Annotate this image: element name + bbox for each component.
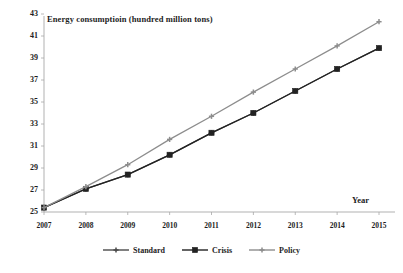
legend-item-crisis[interactable]: Crisis [182, 245, 232, 255]
data-point-marker [209, 130, 214, 135]
series-line [44, 48, 379, 208]
energy-consumption-line-chart: Energy consumptioin (hundred million ton… [0, 0, 403, 273]
plot-area [0, 0, 403, 273]
legend-marker-icon [103, 245, 129, 255]
series-policy [41, 19, 381, 210]
series-line [44, 48, 379, 208]
chart-legend: StandardCrisisPolicy [0, 245, 403, 255]
legend-marker-icon [182, 245, 208, 255]
legend-item-policy[interactable]: Policy [249, 245, 300, 255]
data-point-marker [192, 247, 197, 252]
legend-label: Policy [279, 246, 300, 255]
data-point-marker [125, 172, 130, 177]
data-point-marker [251, 110, 256, 115]
legend-label: Crisis [212, 246, 232, 255]
data-point-marker [293, 88, 298, 93]
legend-item-standard[interactable]: Standard [103, 245, 165, 255]
series-standard [41, 46, 381, 211]
legend-marker-icon [249, 245, 275, 255]
data-point-marker [376, 46, 381, 51]
data-point-marker [167, 152, 172, 157]
legend-label: Standard [133, 246, 165, 255]
series-crisis [41, 46, 381, 211]
data-point-marker [335, 66, 340, 71]
